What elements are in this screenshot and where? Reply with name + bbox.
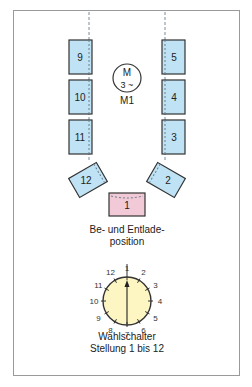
svg-text:10: 10: [74, 92, 86, 103]
svg-text:9: 9: [77, 52, 83, 63]
selector-label-line1: Wahlschalter: [60, 331, 194, 343]
selector-label-line2: Stellung 1 bis 12: [60, 343, 194, 355]
motor-symbol: M 3 ~: [113, 64, 141, 92]
dial-number: 1: [125, 264, 130, 273]
station-3: 3: [162, 120, 185, 154]
svg-text:12: 12: [80, 175, 92, 186]
svg-text:2: 2: [165, 175, 171, 186]
station-9: 9: [69, 40, 92, 74]
selector-dial: 123456789101112: [90, 264, 163, 339]
dial-number: 11: [94, 281, 103, 290]
dial-number: 3: [153, 281, 158, 290]
load-position-label: Be- und Entlade- position: [60, 224, 194, 248]
svg-text:3: 3: [171, 132, 177, 143]
station-4: 4: [162, 80, 185, 114]
svg-text:5: 5: [171, 52, 177, 63]
dial-number: 5: [153, 314, 158, 323]
dial-number: 12: [106, 268, 115, 277]
dial-number: 4: [158, 297, 163, 306]
svg-text:11: 11: [75, 132, 86, 143]
station-10: 10: [69, 80, 92, 114]
station-1-load-position: 1: [109, 193, 145, 216]
svg-text:M: M: [123, 67, 131, 78]
selector-label: Wahlschalter Stellung 1 bis 12: [60, 331, 194, 355]
dial-number: 10: [90, 297, 99, 306]
svg-text:3 ~: 3 ~: [121, 80, 134, 90]
load-label-line2: position: [60, 236, 194, 248]
dial-number: 2: [141, 268, 146, 277]
load-label-line1: Be- und Entlade-: [60, 224, 194, 236]
station-11: 11: [69, 120, 92, 154]
motor-label: M1: [120, 95, 134, 106]
svg-text:1: 1: [124, 200, 130, 211]
carousel-diagram: 9 10 11 5 4 3 12 2 1: [0, 0, 252, 387]
station-5: 5: [162, 40, 185, 74]
svg-text:4: 4: [171, 92, 177, 103]
dial-number: 9: [96, 314, 101, 323]
